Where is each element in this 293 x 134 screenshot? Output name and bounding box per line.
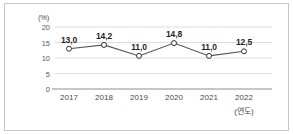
chart-figure: (%) 20 15 10 5 0 13,0 14,2 11,0 14,8 11,… xyxy=(0,0,293,134)
data-point-2020 xyxy=(172,41,177,46)
x-tick-label-2021: 2021 xyxy=(189,93,229,102)
x-tick-label-2022: 2022 xyxy=(224,93,264,102)
data-point-2017 xyxy=(67,46,72,51)
data-label-2021: 11,0 xyxy=(192,42,226,52)
y-tick-label-5: 5 xyxy=(32,70,50,79)
x-tick-label-2019: 2019 xyxy=(119,93,159,102)
x-tick-label-2020: 2020 xyxy=(154,93,194,102)
data-point-2022 xyxy=(242,49,247,54)
data-point-2021 xyxy=(207,53,212,58)
data-label-2017: 13,0 xyxy=(52,35,86,45)
y-axis-unit-label: (%) xyxy=(38,13,49,22)
x-axis-title: (연도) xyxy=(224,105,264,116)
data-point-2019 xyxy=(137,53,142,58)
y-tick-label-10: 10 xyxy=(32,54,50,63)
data-label-2019: 11,0 xyxy=(122,42,156,52)
x-tick-label-2018: 2018 xyxy=(84,93,124,102)
y-tick-label-0: 0 xyxy=(32,85,50,94)
y-tick-label-20: 20 xyxy=(32,23,50,32)
data-label-2022: 12,5 xyxy=(227,37,261,47)
data-label-2018: 14,2 xyxy=(87,31,121,41)
x-tick-label-2017: 2017 xyxy=(49,93,89,102)
data-point-2018 xyxy=(102,42,107,47)
data-label-2020: 14,8 xyxy=(157,29,191,39)
y-tick-label-15: 15 xyxy=(32,39,50,48)
